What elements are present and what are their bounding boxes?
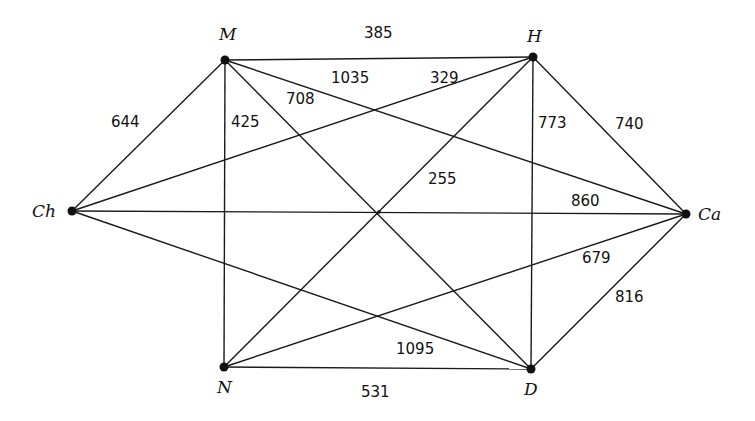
edge-weight-label: 644 <box>111 113 140 131</box>
edge-ch-d <box>72 211 531 369</box>
edge-m-d <box>225 60 531 369</box>
edge-weight-label: 255 <box>428 170 457 188</box>
weighted-graph-diagram: 3851035329708425644773740255860679816109… <box>0 0 755 421</box>
edge-h-ca <box>533 57 686 214</box>
edge-weight-label: 679 <box>582 249 611 267</box>
edge-weight-label: 1035 <box>331 69 369 87</box>
edge-weight-label: 740 <box>615 115 644 133</box>
edge-d-ca <box>531 214 686 369</box>
edge-weight-label: 773 <box>538 114 567 132</box>
edge-weight-label: 531 <box>361 383 390 401</box>
node-label-h: H <box>526 26 543 46</box>
node-m <box>221 56 230 65</box>
edge-weight-label: 860 <box>571 192 600 210</box>
center-intersection-dot <box>377 210 381 214</box>
node-label-ch: Ch <box>32 201 56 221</box>
node-d <box>527 365 536 374</box>
node-label-d: D <box>523 379 538 399</box>
node-n <box>220 363 229 372</box>
node-label-n: N <box>216 377 233 397</box>
node-h <box>529 53 538 62</box>
node-label-ca: Ca <box>698 204 721 224</box>
edge-m-n <box>224 60 225 367</box>
edge-ch-h <box>72 57 533 211</box>
edge-weight-label: 816 <box>615 288 644 306</box>
edge-m-h <box>225 57 533 60</box>
edge-n-d <box>224 367 531 369</box>
edge-ch-m <box>72 60 225 211</box>
node-ch <box>68 207 77 216</box>
edge-weight-label: 425 <box>231 113 260 131</box>
node-label-m: M <box>218 24 237 44</box>
edge-weight-label: 1095 <box>396 340 434 358</box>
edge-weight-label: 385 <box>364 24 393 42</box>
edge-weight-label: 329 <box>430 69 459 87</box>
node-ca <box>682 210 691 219</box>
graph-svg: 3851035329708425644773740255860679816109… <box>0 0 755 421</box>
edge-weight-label: 708 <box>286 90 315 108</box>
